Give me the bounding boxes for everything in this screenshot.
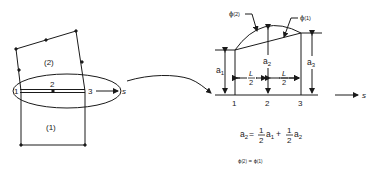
node-2-dot [52,90,54,92]
phi-2-leader [245,14,257,31]
half-length-num-right: L [282,69,286,78]
eq-term2: a2 [294,129,303,140]
connector-curve [127,75,190,81]
eq-frac2-num: 1 [287,126,292,135]
mesh-figure [13,30,190,146]
field-plot [215,14,358,95]
element-1-label: (1) [46,123,56,132]
node-3-label: 3 [88,87,93,96]
half-length-den-left: 2 [249,78,253,87]
eq-lhs: a2= [240,129,254,140]
node-1-label-right: 1 [232,99,237,108]
s-axis-label-right: s [362,91,366,100]
eq-frac2-den: 2 [287,136,292,145]
eq-frac1-num: 1 [259,126,264,135]
diagram-canvas: (2) (1) 1 2 3 s L [0,0,375,172]
node-2-label: 2 [50,80,55,89]
continuity-equation: ϕ(2) = ϕ(1) [238,158,263,164]
half-length-num-left: L [249,69,253,78]
node-dot [15,48,17,50]
node-dot [84,144,86,146]
node-1-label: 1 [14,87,19,96]
constraint-equation: a2= 1 2 a1+ 1 2 a2 [240,126,303,145]
phi-2-label: ϕ(2) [229,9,240,18]
node-dot [45,39,47,41]
s-axis-label: s [122,87,126,96]
eq-term1: a1+ [266,129,281,140]
element-1-outline [21,91,85,145]
node-2-label-right: 2 [265,99,270,108]
phi-1-label: ϕ(1) [300,13,311,22]
node-3-label-right: 3 [298,99,303,108]
connector-arrow [190,79,211,93]
eq-frac1-den: 2 [259,136,264,145]
node-dot [18,69,20,71]
element-2-label: (2) [44,58,54,67]
node-dot [81,61,83,63]
node-dot [75,30,77,32]
node-dot [20,144,22,146]
half-length-den-right: 2 [282,78,286,87]
